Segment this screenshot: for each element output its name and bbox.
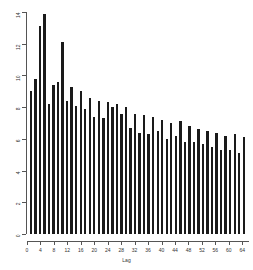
- bar: [143, 115, 145, 234]
- x-axis-title: Lag: [0, 257, 253, 263]
- x-axis-tick: [94, 242, 95, 245]
- y-axis-tick-label: 10: [16, 76, 21, 92]
- bar: [80, 91, 82, 234]
- bar: [61, 42, 63, 234]
- x-axis-tick: [108, 242, 109, 245]
- bar: [84, 109, 86, 234]
- y-axis-tick-label: 6: [16, 139, 21, 155]
- bar: [157, 131, 159, 234]
- bar: [34, 79, 36, 234]
- bar: [188, 126, 190, 234]
- bar: [66, 101, 68, 234]
- bar: [175, 136, 177, 234]
- bar: [206, 131, 208, 234]
- x-axis-tick: [188, 242, 189, 245]
- y-axis-tick-label: 12: [16, 44, 21, 60]
- bar: [102, 118, 104, 234]
- y-axis-tick: [22, 234, 26, 235]
- y-axis-tick: [22, 171, 26, 172]
- bar: [98, 101, 100, 234]
- x-axis-tick: [215, 242, 216, 245]
- bar: [111, 107, 113, 234]
- x-axis-tick: [175, 242, 176, 245]
- x-axis-tick: [148, 242, 149, 245]
- x-axis-tick: [135, 242, 136, 245]
- bar: [43, 14, 45, 234]
- bar: [152, 117, 154, 234]
- x-axis-tick: [67, 242, 68, 245]
- bar: [229, 150, 231, 234]
- bar: [39, 26, 41, 234]
- x-axis-tick: [162, 242, 163, 245]
- bar: [138, 133, 140, 234]
- bar: [211, 147, 213, 234]
- bar: [116, 104, 118, 234]
- y-axis-tick-label: 8: [16, 108, 21, 124]
- bar: [129, 128, 131, 234]
- x-axis-tick: [121, 242, 122, 245]
- x-axis-tick: [54, 242, 55, 245]
- bar: [48, 104, 50, 234]
- y-axis-tick: [22, 44, 26, 45]
- bar: [30, 91, 32, 234]
- bar: [134, 114, 136, 235]
- bar: [166, 139, 168, 234]
- bar: [107, 102, 109, 234]
- bar: [197, 129, 199, 234]
- bar: [125, 107, 127, 234]
- bar: [179, 121, 181, 234]
- y-axis-tick-label: 4: [16, 171, 21, 187]
- bar: [147, 134, 149, 234]
- bar: [89, 98, 91, 234]
- bar-series: [27, 12, 251, 234]
- bar: [120, 114, 122, 235]
- bar: [70, 87, 72, 234]
- bar: [93, 117, 95, 234]
- bar: [224, 136, 226, 234]
- y-axis-tick-label: 14: [16, 13, 21, 29]
- x-axis-tick: [202, 242, 203, 245]
- bar: [57, 82, 59, 234]
- bar: [52, 85, 54, 234]
- x-axis-tick: [81, 242, 82, 245]
- x-axis-tick-label: 64: [234, 248, 250, 253]
- bar: [170, 123, 172, 234]
- bar: [184, 142, 186, 234]
- bar: [215, 133, 217, 234]
- bar: [220, 150, 222, 234]
- x-axis-tick: [40, 242, 41, 245]
- y-axis-tick-label: 2: [16, 203, 21, 219]
- bar: [75, 106, 77, 234]
- x-axis-tick: [229, 242, 230, 245]
- y-axis-tick: [22, 75, 26, 76]
- y-axis-tick: [22, 139, 26, 140]
- bar: [238, 153, 240, 234]
- bar: [193, 142, 195, 234]
- y-axis-tick: [22, 107, 26, 108]
- bar: [161, 120, 163, 234]
- x-axis-tick: [242, 242, 243, 245]
- bar-chart: 02468101214 0481216202428323640444852566…: [0, 0, 253, 270]
- x-axis-tick: [27, 242, 28, 245]
- y-axis-tick: [22, 202, 26, 203]
- bar: [234, 134, 236, 234]
- bar: [243, 137, 245, 234]
- bar: [202, 144, 204, 234]
- y-axis-tick: [22, 12, 26, 13]
